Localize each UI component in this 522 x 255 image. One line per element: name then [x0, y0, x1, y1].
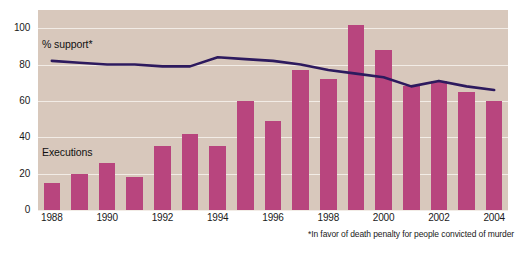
chart-figure: 020406080100 198819901992199419961998200…	[0, 0, 522, 255]
x-axis-tick-label: 2002	[419, 212, 459, 223]
y-axis-tick-label: 40	[2, 131, 30, 142]
chart-footnote: *In favor of death penalty for people co…	[0, 229, 514, 239]
annotation-support-label: % support*	[42, 38, 92, 50]
annotation-executions-label: Executions	[42, 146, 92, 158]
x-axis-tick-label: 1992	[142, 212, 182, 223]
gridline	[38, 210, 508, 211]
y-axis-tick-label: 0	[2, 204, 30, 215]
x-axis-tick-label: 1988	[32, 212, 72, 223]
x-axis-tick-label: 1990	[87, 212, 127, 223]
x-axis-tick-label: 2000	[364, 212, 404, 223]
x-axis-tick-label: 1996	[253, 212, 293, 223]
x-axis-tick-label: 1994	[198, 212, 238, 223]
y-axis-tick-label: 80	[2, 59, 30, 70]
x-axis-tick-label: 1998	[308, 212, 348, 223]
y-axis-tick-label: 60	[2, 95, 30, 106]
y-axis-tick-label: 100	[2, 22, 30, 33]
line-series-percent-support	[38, 10, 508, 210]
y-axis-tick-label: 20	[2, 168, 30, 179]
x-axis-tick-label: 2004	[474, 212, 514, 223]
support-polyline	[52, 57, 494, 90]
